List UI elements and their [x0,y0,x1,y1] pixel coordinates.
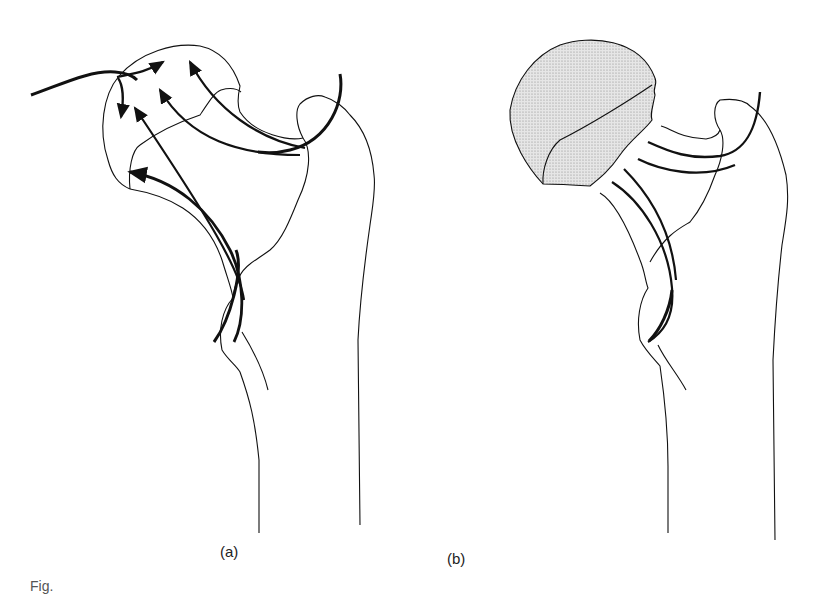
panel-b-label: (b) [447,550,465,567]
panel-a-stress-lines [31,62,341,342]
detached-femoral-head [510,40,656,186]
figure-caption: Fig. [30,578,53,594]
panel-a-label: (a) [220,543,238,560]
panel-b-femur [510,40,788,540]
